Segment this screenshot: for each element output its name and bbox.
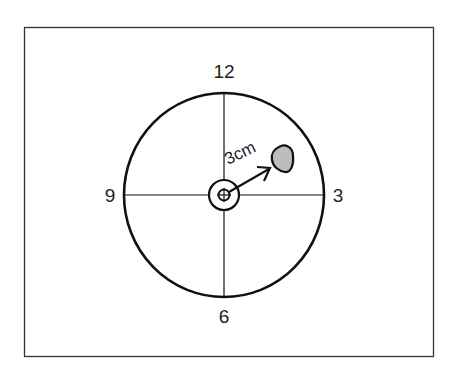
label-3: 3 [333, 185, 344, 206]
clock-position-diagram: 3cm 12 3 6 9 [0, 0, 450, 375]
label-6: 6 [219, 306, 230, 327]
lesion-shape [272, 145, 293, 172]
distance-arrow [229, 169, 269, 192]
label-9: 9 [105, 185, 116, 206]
label-12: 12 [213, 61, 234, 82]
distance-label: 3cm [221, 137, 258, 168]
